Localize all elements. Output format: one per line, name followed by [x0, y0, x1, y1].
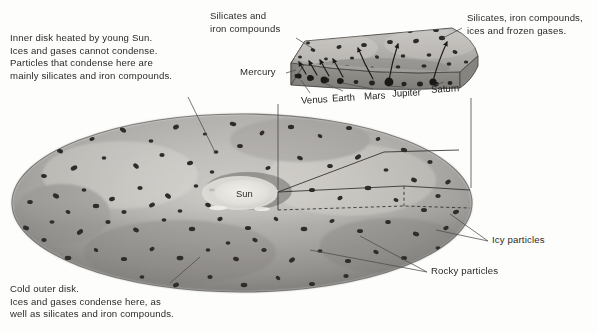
outer-disk-line-3: well as silicates and iron compounds. — [10, 308, 174, 319]
diagram-canvas: Inner disk heated by young Sun. Ices and… — [0, 0, 597, 333]
annotation-top-center: Silicates and iron compounds — [210, 10, 280, 35]
protoplanetary-disk — [12, 114, 472, 292]
outer-disk-line-1: Cold outer disk. — [10, 283, 79, 294]
sun-label: Sun — [236, 188, 253, 199]
inner-disk-line-1: Inner disk heated by young Sun. — [10, 32, 152, 43]
annotation-rocky-particles: Rocky particles — [431, 265, 498, 278]
annotation-top-right: Silicates, iron compounds, ices and froz… — [467, 12, 583, 37]
inner-disk-line-3: Particles that condense here are — [10, 57, 153, 68]
outer-disk-line-2: Ices and gases condense here, as — [10, 296, 161, 307]
planet-label-mars: Mars — [364, 89, 386, 101]
annotation-icy-particles: Icy particles — [492, 234, 545, 247]
planet-label-earth: Earth — [332, 91, 355, 103]
inner-disk-line-2: Ices and gases cannot condense. — [10, 45, 158, 56]
annotation-inner-disk: Inner disk heated by young Sun. Ices and… — [10, 32, 172, 82]
annotation-outer-disk: Cold outer disk. Ices and gases condense… — [10, 283, 174, 321]
planet-label-venus: Venus — [301, 93, 328, 105]
inner-disk-line-4: mainly silicates and iron compounds. — [10, 70, 172, 81]
top-right-line-1: Silicates, iron compounds, — [467, 12, 583, 23]
planet-label-jupiter: Jupiter — [392, 86, 421, 98]
top-center-line-1: Silicates and — [210, 10, 266, 21]
annotation-mercury: Mercury — [240, 66, 276, 79]
disk-cross-section-inset — [282, 28, 478, 89]
planet-label-saturn: Saturn — [431, 82, 460, 94]
top-right-line-2: ices and frozen gases. — [467, 25, 566, 36]
top-center-line-2: iron compounds — [210, 23, 280, 34]
